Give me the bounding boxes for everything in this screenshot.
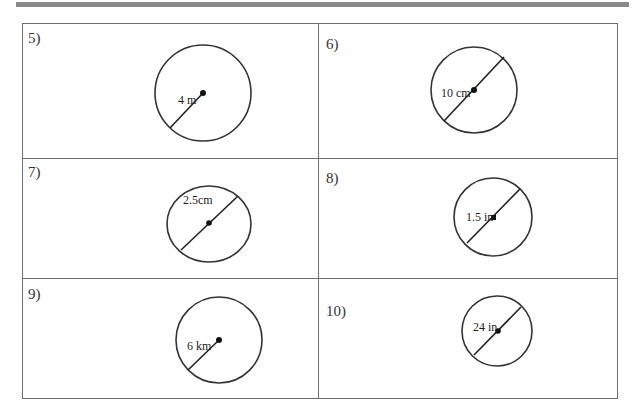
measure-label-10: 24 in bbox=[473, 320, 497, 334]
circle-figure-9: 6 km bbox=[176, 297, 262, 383]
circle-figure-5: 4 m bbox=[155, 45, 251, 141]
circle-figures: 4 m 10 cm 2.5cm 1.5 in 6 km 24 in bbox=[0, 0, 639, 416]
measure-label-8: 1.5 in bbox=[466, 210, 493, 224]
circle-figure-10: 24 in bbox=[462, 296, 532, 366]
circle-figure-6: 10 cm bbox=[431, 47, 517, 133]
circle-figure-8: 1.5 in bbox=[454, 178, 532, 256]
measure-label-7: 2.5cm bbox=[183, 193, 213, 207]
measure-label-5: 4 m bbox=[178, 93, 197, 107]
measure-label-6: 10 cm bbox=[441, 86, 471, 100]
circle-figure-7: 2.5cm bbox=[167, 186, 251, 262]
measure-label-9: 6 km bbox=[187, 339, 212, 353]
